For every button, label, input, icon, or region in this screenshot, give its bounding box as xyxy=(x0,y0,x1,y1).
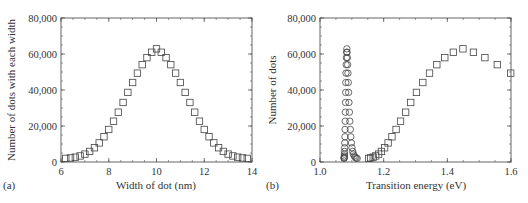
square-marker xyxy=(86,148,92,154)
square-marker xyxy=(63,155,69,161)
square-marker xyxy=(215,145,221,151)
square-marker xyxy=(225,151,231,157)
square-marker xyxy=(101,134,107,140)
square-marker xyxy=(393,126,399,132)
square-marker xyxy=(244,155,250,161)
square-marker xyxy=(115,109,121,115)
figure: 68101214020,00040,00060,00080,000 Width … xyxy=(0,0,528,203)
y-tick-label: 80,000 xyxy=(287,13,316,24)
y-tick-label: 60,000 xyxy=(28,49,57,60)
panel-label-a: (a) xyxy=(3,179,16,192)
square-marker xyxy=(442,54,448,60)
square-marker xyxy=(408,99,414,105)
square-marker xyxy=(494,61,500,67)
x-axis-title-b: Transition energy (eV) xyxy=(366,179,467,192)
square-marker xyxy=(82,151,88,157)
plot-frame-b xyxy=(320,18,511,162)
plot-frame-a xyxy=(61,18,252,162)
x-tick-label: 1.2 xyxy=(377,166,390,177)
square-marker xyxy=(168,61,174,67)
y-tick-label: 80,000 xyxy=(28,13,57,24)
x-tick-label: 6 xyxy=(58,166,63,177)
circle-marker xyxy=(347,118,353,124)
square-marker xyxy=(134,70,140,76)
y-axis-title-b: Number of dots xyxy=(266,55,278,124)
square-marker xyxy=(434,61,440,67)
panel-label-b: (b) xyxy=(266,179,279,192)
square-marker xyxy=(201,126,207,132)
x-tick-label: 10 xyxy=(151,166,162,177)
square-marker xyxy=(196,118,202,124)
circle-marker xyxy=(342,140,348,146)
square-marker xyxy=(450,49,456,55)
square-marker xyxy=(120,99,126,105)
y-tick-label: 0 xyxy=(311,157,316,168)
y-axis-title-a: Number of dots with each width xyxy=(5,18,17,161)
square-marker xyxy=(420,79,426,85)
square-marker xyxy=(413,89,419,95)
square-marker xyxy=(129,79,135,85)
square-marker xyxy=(211,140,217,146)
circle-marker xyxy=(348,134,354,140)
y-tick-label: 40,000 xyxy=(287,85,316,96)
x-tick-label: 1.4 xyxy=(441,166,455,177)
y-tick-label: 40,000 xyxy=(28,85,57,96)
square-marker xyxy=(220,148,226,154)
y-tick-label: 0 xyxy=(52,157,57,168)
square-marker xyxy=(125,89,131,95)
circle-marker xyxy=(346,109,352,115)
square-marker xyxy=(177,79,183,85)
square-marker xyxy=(460,46,466,52)
x-tick-label: 12 xyxy=(199,166,210,177)
data-points-a xyxy=(63,46,251,162)
data-points-b xyxy=(341,46,514,162)
square-marker xyxy=(172,70,178,76)
square-marker xyxy=(402,109,408,115)
y-tick-label: 20,000 xyxy=(287,121,316,132)
square-marker xyxy=(182,89,188,95)
square-marker xyxy=(91,145,97,151)
square-marker xyxy=(482,54,488,60)
axis-ticks-b: 1.01.21.41.6020,00040,00060,00080,000 xyxy=(287,13,517,177)
y-tick-label: 20,000 xyxy=(28,121,57,132)
circle-marker xyxy=(342,134,348,140)
square-marker xyxy=(426,70,432,76)
square-marker xyxy=(206,134,212,140)
x-tick-label: 1.6 xyxy=(504,166,517,177)
axis-ticks-a: 68101214020,00040,00060,00080,000 xyxy=(28,13,258,177)
square-marker xyxy=(139,61,145,67)
chart-panel-a: 68101214020,00040,00060,00080,000 Width … xyxy=(3,13,258,192)
square-marker xyxy=(96,140,102,146)
square-marker xyxy=(470,49,476,55)
square-marker xyxy=(106,126,112,132)
circle-marker xyxy=(343,61,349,67)
square-marker xyxy=(389,134,395,140)
y-tick-label: 60,000 xyxy=(287,49,316,60)
circle-marker xyxy=(344,61,350,67)
square-marker xyxy=(110,118,116,124)
square-marker xyxy=(397,118,403,124)
chart-panel-b: 1.01.21.41.6020,00040,00060,00080,000 Tr… xyxy=(266,13,518,192)
x-axis-title-a: Width of dot (nm) xyxy=(116,179,196,192)
x-tick-label: 14 xyxy=(247,166,258,177)
x-tick-label: 8 xyxy=(106,166,111,177)
square-marker xyxy=(187,99,193,105)
square-marker xyxy=(192,109,198,115)
